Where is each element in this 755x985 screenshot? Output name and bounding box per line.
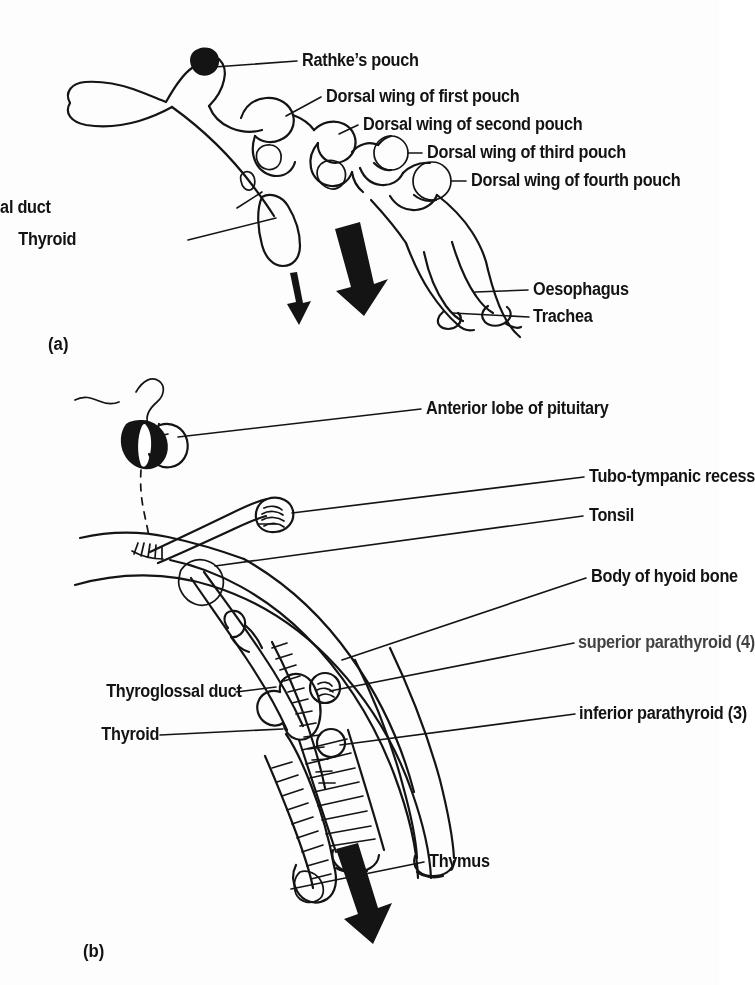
leader-sup-parathyroid [330, 643, 574, 691]
label-superior-parathyroid: superior parathyroid (4) [578, 634, 755, 652]
label-trachea: Trachea [533, 308, 593, 326]
panel-b-drawing [75, 379, 586, 944]
leader-thyroid-b [160, 729, 283, 735]
label-body-of-hyoid-bone: Body of hyoid bone [591, 568, 738, 586]
leader-pituitary [178, 409, 421, 437]
label-dorsal-wing-second-pouch: Dorsal wing of second pouch [363, 116, 582, 134]
leader-rathkes [214, 61, 297, 67]
leader-pouch1 [286, 97, 321, 116]
label-dorsal-wing-third-pouch: Dorsal wing of third pouch [427, 144, 626, 162]
label-anterior-lobe-pituitary: Anterior lobe of pituitary [426, 400, 609, 418]
label-oesophagus: Oesophagus [533, 281, 629, 299]
label-rathkes-pouch: Rathke’s pouch [302, 52, 419, 70]
label-thyroid-a: Thyroid [19, 231, 77, 249]
leader-trachea [452, 313, 529, 317]
label-tonsil: Tonsil [589, 507, 634, 525]
leader-thyroid-a [188, 218, 276, 240]
panel-caption-b: (b) [83, 941, 104, 962]
leader-tubotympanic [292, 477, 584, 513]
panel-caption-a: (a) [48, 334, 68, 355]
label-thyroglossal-duct-b: Thyroglossal duct [106, 683, 241, 701]
label-dorsal-wing-first-pouch: Dorsal wing of first pouch [326, 88, 519, 106]
label-thymus: Thymus [429, 853, 490, 871]
label-thyroid-b: Thyroid [102, 726, 160, 744]
label-tubo-tympanic-recess: Tubo-tympanic recess [589, 468, 755, 486]
leader-oesophagus [475, 290, 528, 292]
label-dorsal-wing-fourth-pouch: Dorsal wing of fourth pouch [471, 172, 680, 190]
label-thyroglossal-duct-a: Thyroglossal duct [0, 199, 50, 217]
label-inferior-parathyroid: inferior parathyroid (3) [579, 705, 747, 723]
